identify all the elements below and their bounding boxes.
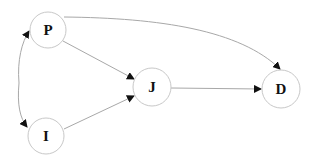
node-j: J — [133, 68, 171, 106]
edge-p-to-j — [63, 41, 134, 79]
node-j-label: J — [148, 79, 156, 95]
edge-i-to-p — [19, 31, 29, 83]
node-p: P — [30, 12, 66, 48]
node-i: I — [28, 118, 64, 154]
edge-p-to-d — [64, 17, 280, 69]
node-d-label: D — [276, 81, 287, 97]
edge-i-to-j — [64, 96, 134, 129]
graph-svg: P J I D — [0, 0, 309, 164]
node-p-label: P — [43, 22, 52, 38]
node-d: D — [262, 70, 300, 108]
node-i-label: I — [43, 128, 49, 144]
diagram-canvas: P J I D — [0, 0, 309, 164]
edge-p-to-i — [18, 83, 27, 127]
edge-j-to-d — [171, 88, 261, 89]
